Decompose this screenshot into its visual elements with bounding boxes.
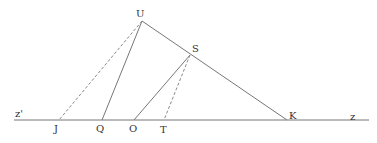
segment-ST	[164, 55, 190, 120]
segment-UQ	[102, 21, 142, 120]
geometry-diagram: USKJQOTz'z	[0, 0, 377, 143]
segment-SO	[134, 55, 190, 120]
label-point-O: O	[129, 123, 137, 134]
label-point-K: K	[289, 110, 297, 121]
point-labels: USKJQOTz'z	[15, 8, 355, 135]
label-point-J: J	[53, 123, 58, 134]
segment-UJ	[59, 21, 142, 120]
label-point-U: U	[136, 8, 144, 19]
label-point-Q: Q	[96, 123, 104, 134]
segment-UK	[142, 21, 287, 120]
label-point-T: T	[160, 124, 167, 135]
label-point-S: S	[192, 43, 199, 54]
label-ray-right: z	[350, 111, 355, 122]
label-ray-left: z'	[15, 108, 23, 119]
dashed-segments	[59, 21, 190, 120]
diagram-canvas: USKJQOTz'z	[0, 0, 377, 143]
solid-segments	[102, 21, 287, 120]
